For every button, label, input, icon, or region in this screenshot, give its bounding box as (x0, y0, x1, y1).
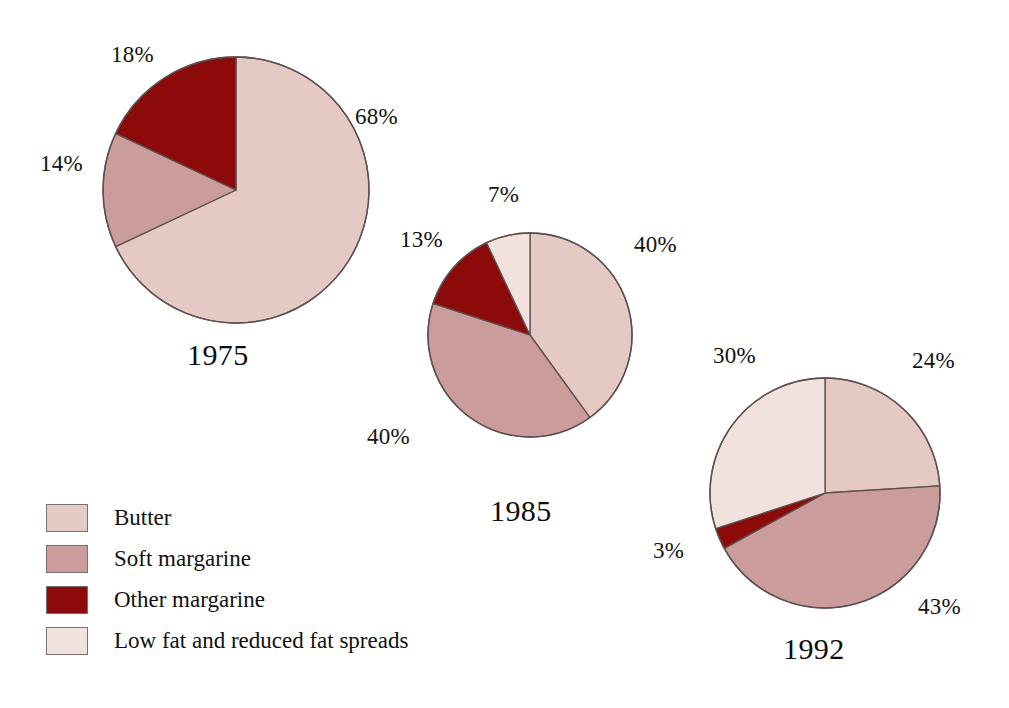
pie-chart-1985 (428, 233, 632, 437)
legend-swatch-other-margarine (46, 586, 88, 614)
pie-1975-label-butter: 68% (355, 104, 398, 130)
legend-swatch-soft-margarine (46, 545, 88, 573)
pie-1985-label-low-fat: 7% (488, 182, 519, 208)
pie-1975-year: 1975 (187, 338, 249, 372)
pie-chart-1975 (103, 57, 369, 323)
legend-label-butter: Butter (114, 505, 172, 531)
legend-swatch-low-fat (46, 627, 88, 655)
legend: Butter Soft margarine Other margarine Lo… (46, 497, 476, 661)
legend-item-low-fat: Low fat and reduced fat spreads (46, 620, 476, 661)
pie-1992-label-low-fat: 30% (713, 343, 756, 369)
pie-1992-label-other-margarine: 3% (653, 538, 684, 564)
pie-1992-year: 1992 (783, 632, 845, 666)
pie-1985-label-soft-margarine: 40% (367, 424, 410, 450)
legend-item-other-margarine: Other margarine (46, 579, 476, 620)
legend-swatch-butter (46, 504, 88, 532)
legend-item-butter: Butter (46, 497, 476, 538)
legend-label-soft-margarine: Soft margarine (114, 546, 251, 572)
pie-1992-slice-butter (825, 378, 940, 493)
pie-1985-label-butter: 40% (634, 232, 677, 258)
pie-1975-label-other-margarine: 18% (111, 42, 154, 68)
legend-item-soft-margarine: Soft margarine (46, 538, 476, 579)
legend-label-other-margarine: Other margarine (114, 587, 265, 613)
pie-1992-label-butter: 24% (912, 348, 955, 374)
legend-label-low-fat: Low fat and reduced fat spreads (114, 628, 408, 654)
pie-chart-figure: 68% 14% 18% 1975 40% 40% 13% 7% 1985 24%… (0, 0, 1009, 708)
pie-1985-label-other-margarine: 13% (400, 227, 443, 253)
pie-chart-1992 (710, 378, 940, 608)
pie-1985-year: 1985 (490, 494, 552, 528)
pie-1975-label-soft-margarine: 14% (40, 151, 83, 177)
pie-1992-label-soft-margarine: 43% (918, 594, 961, 620)
